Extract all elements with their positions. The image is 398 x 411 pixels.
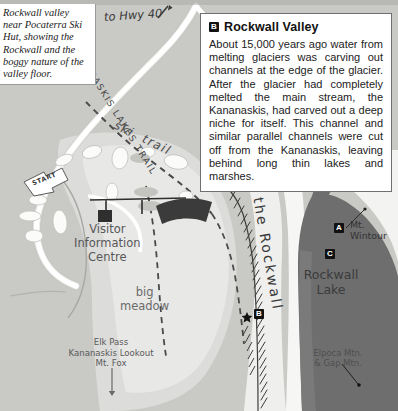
map-figure: Rockwall valley near Pocaterra Ski Hut, … [0,0,398,411]
info-marker-b: B [209,22,219,32]
info-box: B Rockwall Valley About 15,000 years ago… [200,13,392,192]
map-marker-b[interactable]: B [254,309,264,319]
map-marker-a[interactable]: A [334,223,344,233]
parking-block [98,210,112,222]
figure-caption: Rockwall valley near Pocaterra Ski Hut, … [0,4,96,85]
map-marker-c[interactable]: C [325,249,335,259]
info-box-body: About 15,000 years ago water from meltin… [209,38,383,183]
info-box-title: Rockwall Valley [224,20,319,34]
info-box-header: B Rockwall Valley [209,20,383,34]
